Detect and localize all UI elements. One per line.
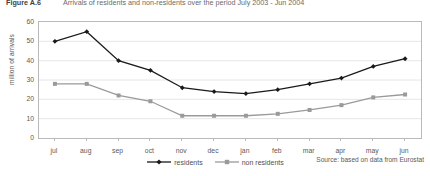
- data-point: [339, 103, 343, 107]
- y-tick-label: 60: [26, 18, 34, 25]
- x-tick-mark: [340, 138, 341, 141]
- data-point: [244, 91, 249, 96]
- data-point: [148, 68, 153, 73]
- data-point: [212, 89, 217, 94]
- figure-title: Figure A.6 Arrivals of residents and non…: [6, 0, 304, 7]
- y-tick-label: 50: [26, 37, 34, 44]
- diamond-marker-icon: [146, 158, 172, 166]
- data-point: [371, 95, 375, 99]
- data-point: [212, 114, 216, 118]
- square-marker-icon: [214, 158, 240, 166]
- y-tick-label: 40: [26, 56, 34, 63]
- data-point: [276, 112, 280, 116]
- y-tick-label: 30: [26, 76, 34, 83]
- x-tick-mark: [54, 138, 55, 141]
- data-point: [371, 64, 376, 69]
- x-tick-mark: [149, 138, 150, 141]
- y-tick-label: 20: [26, 95, 34, 102]
- source-note: Source: based on data from Eurostat: [316, 156, 424, 163]
- data-point: [117, 93, 121, 97]
- legend-label: residents: [174, 159, 202, 166]
- plot-area: [38, 21, 422, 139]
- x-tick-mark: [309, 138, 310, 141]
- y-axis-ticks: 0102030405060: [12, 14, 34, 176]
- data-point: [85, 82, 89, 86]
- x-tick-mark: [181, 138, 182, 141]
- x-tick-mark: [86, 138, 87, 141]
- legend-label: non residents: [242, 159, 284, 166]
- x-tick-mark: [245, 138, 246, 141]
- data-point: [275, 87, 280, 92]
- figure-container: Figure A.6 Arrivals of residents and non…: [0, 0, 430, 176]
- data-point: [307, 81, 312, 86]
- data-point: [308, 108, 312, 112]
- data-point: [244, 114, 248, 118]
- data-point: [53, 82, 57, 86]
- x-tick-mark: [118, 138, 119, 141]
- x-tick-mark: [372, 138, 373, 141]
- x-tick-mark: [213, 138, 214, 141]
- series-canvas: [39, 22, 421, 138]
- legend-item-residents[interactable]: residents: [146, 158, 202, 166]
- y-tick-label: 10: [26, 114, 34, 121]
- data-point: [180, 114, 184, 118]
- y-tick-label: 0: [30, 134, 34, 141]
- x-tick-mark: [277, 138, 278, 141]
- x-tick-mark: [404, 138, 405, 141]
- series-residents: [53, 29, 408, 96]
- data-point: [148, 99, 152, 103]
- figure-caption: Arrivals of residents and non-residents …: [63, 0, 304, 7]
- data-point: [53, 39, 58, 44]
- data-point: [180, 85, 185, 90]
- data-point: [403, 93, 407, 97]
- figure-label: Figure A.6: [6, 0, 41, 7]
- legend-item-non-residents[interactable]: non residents: [214, 158, 284, 166]
- chart: million of arrivals 0102030405060 julaug…: [0, 14, 430, 176]
